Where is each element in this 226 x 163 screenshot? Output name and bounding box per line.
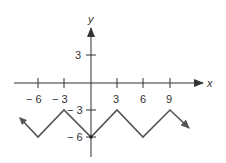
zigzag-line	[21, 110, 189, 137]
y-axis-label: y	[87, 13, 95, 25]
y-tick-label: − 3	[67, 104, 83, 116]
y-tick-label: − 6	[67, 131, 83, 143]
x-tick-label: 6	[140, 93, 146, 105]
x-tick-label: − 6	[26, 93, 42, 105]
x-tick-label: − 3	[52, 93, 68, 105]
x-tick-label: 9	[166, 93, 172, 105]
point-marker	[89, 135, 93, 139]
x-tick-label: 3	[113, 93, 119, 105]
y-tick-label: 3	[75, 49, 81, 61]
x-axis-label: x	[206, 77, 213, 89]
chart: x y − 6 − 3 3 6 9 3 − 3 − 6	[0, 0, 226, 163]
